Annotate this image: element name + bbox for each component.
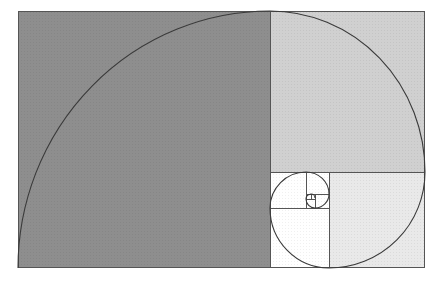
golden-spiral-diagram: [0, 0, 435, 282]
